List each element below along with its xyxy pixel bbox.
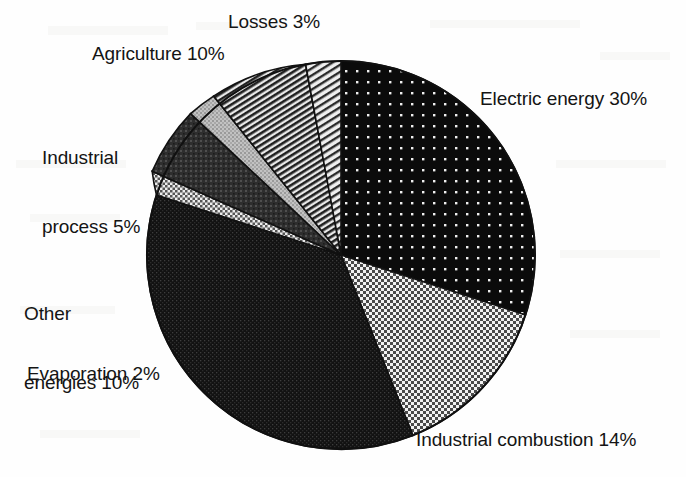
chart-page: Losses 3% Agriculture 10% Industrial pro… <box>0 0 686 477</box>
slice-label-electric-energy: Electric energy 30% <box>480 87 647 110</box>
slice-label-industrial-combustion: Industrial combustion 14% <box>416 428 636 451</box>
cropped-caption <box>120 470 420 477</box>
slice-label-industrial-process-line2: process 5% <box>42 215 140 238</box>
slice-label-evaporation: Evaporation 2% <box>27 362 160 385</box>
slice-label-industrial-process-line1: Industrial <box>42 146 140 169</box>
slice-label-other-energies-line1: Other <box>24 302 139 325</box>
slice-label-losses: Losses 3% <box>228 10 320 33</box>
pie-slices <box>147 61 535 449</box>
slice-label-other-energies: Other energies 10% <box>24 256 139 440</box>
slice-label-agriculture: Agriculture 10% <box>92 42 225 65</box>
